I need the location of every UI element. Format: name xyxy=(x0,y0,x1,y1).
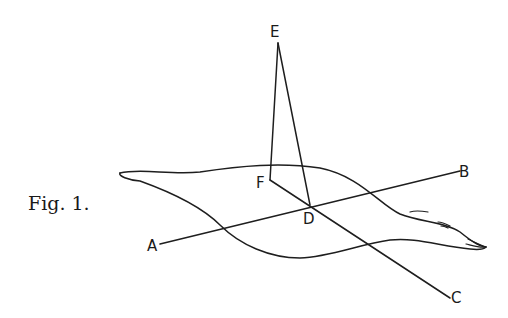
line-FC xyxy=(270,180,450,298)
label-A: A xyxy=(147,237,158,255)
neck-line xyxy=(410,211,428,212)
label-F: F xyxy=(256,174,265,192)
bird-flight-diagram: E F D B A C Fig. 1. xyxy=(0,0,508,318)
line-AB xyxy=(160,171,460,244)
line-ED xyxy=(278,43,310,205)
label-D: D xyxy=(303,210,315,228)
figure-caption: Fig. 1. xyxy=(28,192,90,214)
label-B: B xyxy=(459,163,469,181)
beak xyxy=(466,239,486,247)
label-C: C xyxy=(451,289,461,307)
line-EF xyxy=(270,43,278,180)
label-E: E xyxy=(270,23,279,41)
